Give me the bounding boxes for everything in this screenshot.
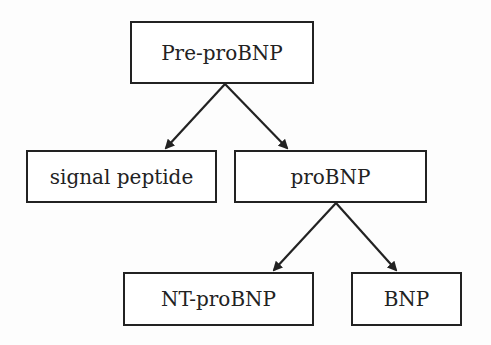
node-bnp: BNP bbox=[351, 272, 462, 326]
node-label: NT-proBNP bbox=[161, 287, 276, 311]
node-label: BNP bbox=[384, 287, 430, 311]
arrow-probnp-to-ntprobnp bbox=[274, 203, 336, 270]
node-nt-probnp: NT-proBNP bbox=[123, 272, 314, 326]
arrow-prepro-to-probnp bbox=[225, 84, 287, 148]
diagram-canvas: Pre-proBNP signal peptide proBNP NT-proB… bbox=[0, 0, 491, 345]
node-pre-probnp: Pre-proBNP bbox=[130, 21, 314, 84]
node-label: signal peptide bbox=[50, 165, 194, 189]
node-probnp: proBNP bbox=[234, 150, 427, 203]
node-label: proBNP bbox=[290, 165, 370, 189]
arrow-prepro-to-signal bbox=[166, 84, 225, 148]
node-label: Pre-proBNP bbox=[161, 41, 283, 65]
node-signal-peptide: signal peptide bbox=[26, 150, 217, 203]
arrow-probnp-to-bnp bbox=[336, 203, 396, 270]
